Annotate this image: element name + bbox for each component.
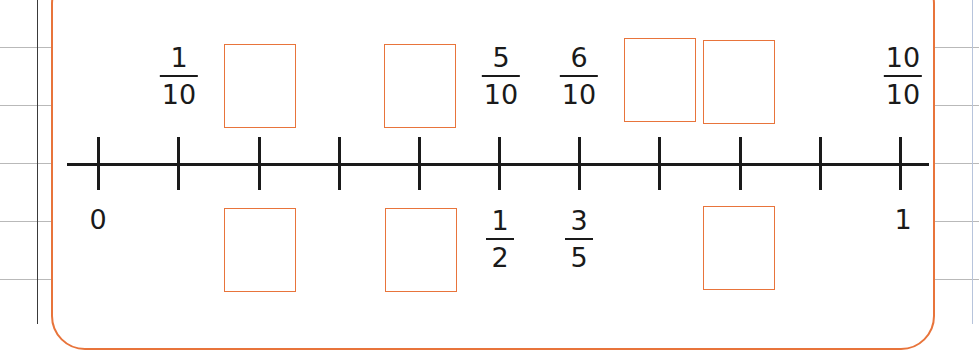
tick-5 xyxy=(498,137,501,190)
numerator: 3 xyxy=(570,207,587,238)
label-one: 1 xyxy=(894,206,911,233)
tick-2 xyxy=(258,137,261,190)
answer-box-top-8-10[interactable] xyxy=(703,40,775,124)
label-zero: 0 xyxy=(89,206,106,233)
denominator: 5 xyxy=(570,240,587,271)
answer-box-top-4-10[interactable] xyxy=(384,44,456,128)
answer-box-bottom-8-10[interactable] xyxy=(703,206,775,290)
fraction-label-1-10: 1 10 xyxy=(162,44,196,108)
fraction-label-6-10: 6 10 xyxy=(562,44,596,108)
denominator: 10 xyxy=(562,77,596,108)
tick-3 xyxy=(338,137,341,190)
fraction-label-3-5: 3 5 xyxy=(567,207,591,271)
numerator: 1 xyxy=(170,44,187,75)
tick-1 xyxy=(177,137,180,190)
fraction-label-1-2: 1 2 xyxy=(488,207,512,271)
numerator: 10 xyxy=(886,44,920,75)
answer-box-top-2-10[interactable] xyxy=(224,44,296,128)
tick-0 xyxy=(97,137,100,190)
answer-box-bottom-2-10[interactable] xyxy=(224,208,296,292)
answer-box-bottom-4-10[interactable] xyxy=(385,208,457,292)
fraction-label-10-10: 10 10 xyxy=(886,44,920,108)
tick-4 xyxy=(418,137,421,190)
tick-9 xyxy=(819,137,822,190)
denominator: 10 xyxy=(484,77,518,108)
numerator: 6 xyxy=(570,44,587,75)
margin-line-right xyxy=(972,0,973,324)
answer-box-top-7-10[interactable] xyxy=(624,38,696,122)
numerator: 1 xyxy=(491,207,508,238)
denominator: 10 xyxy=(886,77,920,108)
denominator: 10 xyxy=(162,77,196,108)
numerator: 5 xyxy=(492,44,509,75)
denominator: 2 xyxy=(491,240,508,271)
tick-7 xyxy=(658,137,661,190)
tick-10 xyxy=(899,137,902,190)
fraction-label-5-10: 5 10 xyxy=(484,44,518,108)
tick-6 xyxy=(578,137,581,190)
margin-line xyxy=(37,0,38,324)
tick-8 xyxy=(739,137,742,190)
